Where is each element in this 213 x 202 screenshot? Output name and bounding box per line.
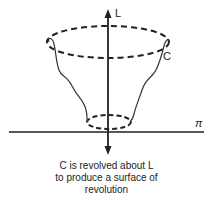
curve-label: C bbox=[163, 50, 171, 62]
bottom-circle bbox=[87, 115, 131, 129]
left-profile-curve bbox=[49, 39, 88, 123]
axis-up-arrow-icon bbox=[105, 9, 112, 18]
plane-label: π bbox=[195, 117, 202, 129]
caption-line-1: C is revolved about L bbox=[0, 160, 213, 172]
caption-line-2: to produce a surface of bbox=[0, 172, 213, 184]
axis-down-arrow-icon bbox=[105, 146, 112, 155]
axis-label: L bbox=[115, 7, 121, 19]
caption: C is revolved about L to produce a surfa… bbox=[0, 160, 213, 196]
caption-line-3: revolution bbox=[0, 184, 213, 196]
